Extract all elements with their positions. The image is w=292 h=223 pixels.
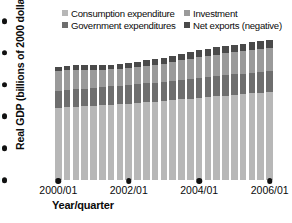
bar-segment: [152, 65, 159, 83]
bar-column: [178, 54, 185, 180]
bar-column: [266, 40, 273, 180]
y-axis-tick-marker: [2, 114, 8, 120]
bar-segment: [55, 91, 62, 108]
bar-segment: [257, 41, 264, 49]
legend-item: Investment: [184, 8, 288, 19]
chart-figure: Real GDP (billions of 2000 dollars) Cons…: [0, 0, 292, 223]
bar-segment: [187, 59, 194, 79]
bar-segment: [169, 81, 176, 101]
bar-segment: [161, 82, 168, 101]
bar-segment: [169, 62, 176, 81]
y-axis-title: Real GDP (billions of 2000 dollars): [14, 0, 26, 158]
bar-segment: [73, 107, 80, 180]
bar-column: [222, 46, 229, 180]
bar-segment: [205, 77, 212, 97]
bar-segment: [108, 86, 115, 104]
bar-column: [187, 52, 194, 180]
bar-segment: [73, 70, 80, 90]
bar-column: [152, 59, 159, 180]
bar-segment: [240, 51, 247, 73]
bar-segment: [161, 64, 168, 82]
bar-segment: [134, 103, 141, 180]
y-axis-tick-marker: [2, 82, 8, 88]
bar-segment: [213, 55, 220, 77]
x-axis-tick-marker: [126, 178, 132, 184]
legend-swatch-icon: [184, 10, 190, 16]
bar-column: [117, 64, 124, 180]
x-axis-tick-marker: [196, 178, 202, 184]
legend-item: Consumption expenditure: [62, 8, 184, 19]
bar-segment: [213, 96, 220, 180]
bar-segment: [249, 50, 256, 73]
bar-segment: [81, 106, 88, 180]
bar-segment: [143, 83, 150, 102]
bar-segment: [266, 92, 273, 180]
bar-segment: [240, 74, 247, 95]
bar-segment: [108, 105, 115, 180]
bar-segment: [249, 42, 256, 50]
bar-segment: [187, 99, 194, 180]
x-axis-tick-marker: [56, 178, 62, 184]
bar-segment: [64, 90, 71, 107]
bar-column: [125, 63, 132, 180]
bar-segment: [196, 78, 203, 98]
bar-segment: [213, 76, 220, 96]
bar-segment: [117, 104, 124, 180]
x-axis-tick-label: 2006/01: [251, 184, 289, 196]
bar-segment: [266, 48, 273, 71]
bar-segment: [99, 87, 106, 105]
bar-segment: [222, 96, 229, 180]
bar-segment: [196, 98, 203, 180]
y-axis-tick-marker: [2, 50, 8, 56]
bar-segment: [90, 70, 97, 88]
bar-segment: [222, 75, 229, 95]
bar-segment: [222, 46, 229, 53]
y-axis-tick-marker: [2, 145, 8, 151]
bar-segment: [125, 104, 132, 180]
bar-column: [257, 41, 264, 180]
bar-column: [213, 47, 220, 180]
bar-segment: [117, 86, 124, 105]
bar-segment: [222, 53, 229, 75]
bar-segment: [178, 99, 185, 180]
bar-segment: [240, 94, 247, 180]
bar-segment: [55, 108, 62, 180]
bar-segment: [240, 44, 247, 52]
bar-segment: [81, 89, 88, 107]
bar-segment: [257, 49, 264, 72]
bar-segment: [213, 47, 220, 54]
bar-segment: [152, 83, 159, 102]
bar-segment: [143, 66, 150, 84]
bar-segment: [205, 49, 212, 56]
bar-segment: [187, 79, 194, 99]
bar-segment: [249, 73, 256, 94]
bar-segment: [196, 57, 203, 78]
bar-segment: [125, 85, 132, 104]
bar-column: [143, 60, 150, 180]
bar-segment: [55, 71, 62, 91]
bar-segment: [187, 52, 194, 59]
bar-segment: [231, 74, 238, 94]
bar-segment: [205, 56, 212, 77]
bar-segment: [81, 70, 88, 89]
x-axis-tick-marker: [267, 178, 273, 184]
bar-segment: [99, 70, 106, 87]
bar-segment: [64, 70, 71, 90]
bar-segment: [108, 69, 115, 86]
x-axis-tick-label: 2000/01: [39, 184, 77, 196]
bar-column: [240, 44, 247, 180]
bar-column: [73, 65, 80, 180]
bar-segment: [257, 72, 264, 93]
legend-label: Consumption expenditure: [71, 8, 175, 19]
bar-column: [231, 45, 238, 180]
y-axis-tick-marker: [2, 177, 8, 183]
bar-segment: [143, 102, 150, 180]
x-axis-title: Year/quarter: [52, 199, 114, 211]
bar-segment: [169, 100, 176, 180]
legend-label: Investment: [193, 8, 237, 19]
bar-segment: [161, 101, 168, 180]
bar-column: [249, 42, 256, 180]
bar-segment: [178, 60, 185, 79]
bar-segment: [134, 84, 141, 103]
bar-segment: [231, 45, 238, 52]
